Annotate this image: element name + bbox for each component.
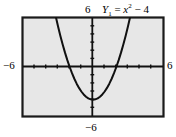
equation-operator: − [134,3,140,15]
equation-equals-sign: = [114,3,120,15]
axis-label-left: −6 [3,60,15,71]
axis-label-top: 6 [85,4,91,15]
equation-series-index: 1 [108,10,112,18]
equation-constant: 4 [143,3,149,15]
axis-label-bottom: −6 [85,122,97,133]
equation-annotation: Y1 = x2 − 4 [102,3,149,18]
plot-canvas [0,0,176,137]
equation-exponent: 2 [128,2,132,10]
graph-figure: 6 −6 6 −6 Y1 = x2 − 4 [0,0,176,137]
axis-label-right: 6 [167,60,173,71]
